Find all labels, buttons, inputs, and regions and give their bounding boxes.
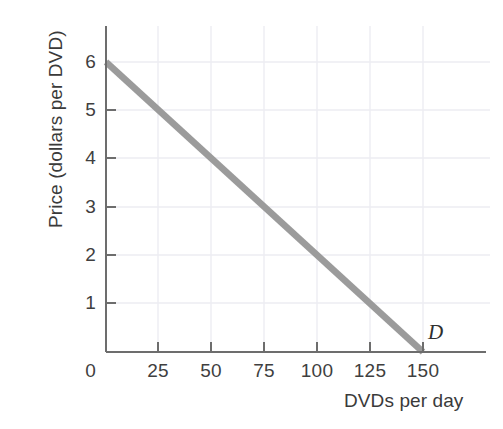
y-tick-label-2: 2 — [70, 244, 96, 266]
y-tick-label-1: 1 — [70, 292, 96, 314]
demand-curve-chart: 6 5 4 3 2 1 0 25 50 75 100 125 150 D Pri… — [0, 0, 503, 429]
x-tick-label-75: 75 — [241, 360, 287, 382]
x-tick-label-100: 100 — [294, 360, 340, 382]
y-axis-title: Price (dollars per DVD) — [45, 30, 67, 228]
x-axis-title: DVDs per day — [344, 390, 463, 412]
x-tick-label-25: 25 — [135, 360, 181, 382]
x-tick-label-125: 125 — [347, 360, 393, 382]
y-tick-label-4: 4 — [70, 147, 96, 169]
horizontal-gridlines — [106, 62, 490, 303]
y-tick-label-5: 5 — [70, 99, 96, 121]
x-tick-label-50: 50 — [188, 360, 234, 382]
series-label-demand: D — [428, 320, 443, 345]
x-axis-ticks — [158, 342, 423, 352]
y-tick-label-6: 6 — [70, 51, 96, 73]
y-axis-ticks — [106, 110, 116, 303]
x-tick-label-150: 150 — [400, 360, 446, 382]
origin-tick-label-0: 0 — [70, 360, 96, 382]
y-tick-label-3: 3 — [70, 196, 96, 218]
